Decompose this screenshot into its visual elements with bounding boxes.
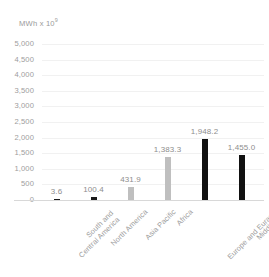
x-axis-category-line: Africa bbox=[174, 207, 194, 227]
x-axis-category-label: Africa bbox=[174, 207, 194, 227]
bar-chart: MWh x 109 5,0004,5004,0003,5003,0002,500… bbox=[0, 0, 269, 277]
bar-value-label: 431.9 bbox=[120, 175, 141, 184]
x-axis-category-label: South andCentral America bbox=[70, 209, 121, 260]
bar-value-label: 1,948.2 bbox=[191, 127, 218, 136]
bar-value-label: 3.6 bbox=[51, 187, 62, 196]
x-axis-categories: 3.6South andCentral America100.4North Am… bbox=[0, 0, 269, 277]
bar-value-label: 1,455.0 bbox=[228, 143, 255, 152]
bar-value-label: 100.4 bbox=[83, 185, 104, 194]
bar-value-label: 1,383.3 bbox=[154, 145, 181, 154]
